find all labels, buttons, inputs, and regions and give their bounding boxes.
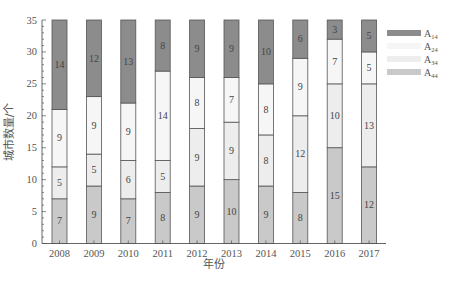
y-tick-label: 25 — [27, 78, 38, 89]
y-tick-label: 10 — [27, 174, 38, 185]
x-axis-title: 年份 — [203, 257, 225, 271]
bar-value-label: 9 — [126, 126, 131, 137]
legend-swatch-A14 — [387, 30, 421, 36]
y-tick-label: 0 — [32, 238, 37, 249]
x-tick-label: 2011 — [152, 248, 173, 259]
bar-value-label: 3 — [332, 24, 337, 35]
bar-value-label: 7 — [229, 94, 234, 105]
legend-label-A34: A34 — [424, 54, 438, 66]
legend-label-A44: A44 — [424, 67, 438, 79]
bar-value-label: 6 — [126, 174, 131, 185]
x-tick-label: 2012 — [187, 248, 208, 259]
x-tick-label: 2017 — [359, 248, 380, 259]
bar-value-label: 7 — [57, 215, 62, 226]
bar-value-label: 10 — [227, 206, 237, 217]
bar-value-label: 9 — [57, 132, 62, 143]
bar-value-label: 10 — [261, 46, 271, 57]
y-axis-title: 城市数量/个 — [2, 103, 16, 162]
bar-value-label: 9 — [229, 43, 234, 54]
bar-value-label: 10 — [330, 110, 340, 121]
y-tick-label: 15 — [27, 142, 38, 153]
bar-value-label: 9 — [91, 209, 96, 220]
bar-value-label: 9 — [263, 209, 268, 220]
bar-value-label: 7 — [332, 56, 337, 67]
bar-value-label: 5 — [160, 171, 165, 182]
bars-group: 7591495912769138514899891097998810812961… — [52, 20, 377, 244]
bar-value-label: 15 — [330, 190, 340, 201]
legend-swatch-A24 — [387, 43, 421, 49]
bar-value-label: 5 — [367, 30, 372, 41]
bar-value-label: 8 — [160, 212, 165, 223]
legend-swatch-A44 — [387, 69, 421, 75]
bar-value-label: 8 — [160, 40, 165, 51]
legend-swatch-A34 — [387, 56, 421, 62]
legend-label-A24: A24 — [424, 41, 438, 53]
y-tick-label: 20 — [27, 110, 38, 121]
x-tick-label: 2009 — [83, 248, 104, 259]
bar-value-label: 13 — [123, 56, 133, 67]
bar-value-label: 6 — [298, 33, 303, 44]
bar-value-label: 9 — [298, 81, 303, 92]
bar-value-label: 12 — [364, 199, 374, 210]
x-tick-label: 2013 — [221, 248, 242, 259]
x-tick-label: 2014 — [255, 248, 277, 259]
bar-value-label: 9 — [195, 152, 200, 163]
x-tick-label: 2010 — [118, 248, 139, 259]
bar-value-label: 12 — [89, 53, 99, 64]
x-tick-label: 2015 — [290, 248, 311, 259]
x-tick-label: 2016 — [324, 248, 345, 259]
bar-value-label: 13 — [364, 120, 374, 131]
bar-value-label: 9 — [229, 145, 234, 156]
y-tick-label: 35 — [27, 15, 38, 26]
y-tick-label: 30 — [27, 46, 38, 57]
bar-value-label: 5 — [57, 177, 62, 188]
bar-value-label: 14 — [55, 59, 65, 70]
bar-value-label: 14 — [158, 110, 168, 121]
legend-label-A14: A14 — [424, 28, 438, 40]
bar-value-label: 8 — [263, 155, 268, 166]
bar-value-label: 5 — [91, 164, 96, 175]
x-tick-label: 2008 — [49, 248, 70, 259]
y-tick-label: 5 — [32, 206, 37, 217]
bar-value-label: 8 — [298, 212, 303, 223]
bar-value-label: 7 — [126, 215, 131, 226]
legend: A14A24A34A44 — [387, 28, 438, 79]
bar-value-label: 5 — [367, 62, 372, 73]
bar-value-label: 8 — [195, 97, 200, 108]
bar-value-label: 9 — [195, 209, 200, 220]
bar-value-label: 12 — [295, 148, 305, 159]
stacked-bar-chart: 7591495912769138514899891097998810812961… — [0, 0, 449, 282]
bar-value-label: 8 — [263, 104, 268, 115]
bar-value-label: 9 — [195, 43, 200, 54]
bar-value-label: 9 — [91, 120, 96, 131]
